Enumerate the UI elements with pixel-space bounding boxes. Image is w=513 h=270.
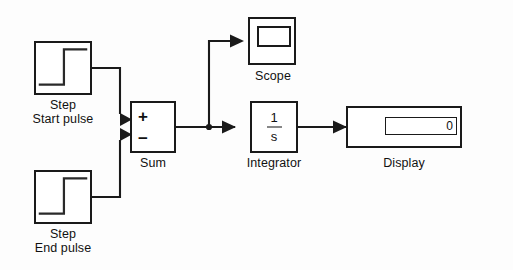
display-value-field: 0 bbox=[385, 117, 457, 135]
label-sum: Sum bbox=[113, 156, 193, 170]
step-waveform-icon bbox=[36, 172, 90, 222]
arrowhead-display bbox=[333, 121, 347, 134]
wire-branch-to-scope bbox=[209, 41, 230, 127]
integrator-transfer-function: 1 s bbox=[252, 111, 296, 144]
fraction-bar bbox=[267, 127, 282, 128]
sum-plus-sign: + bbox=[138, 108, 148, 125]
block-step-end-pulse[interactable] bbox=[34, 170, 92, 224]
label-step-end-pulse: Step End pulse bbox=[4, 227, 122, 255]
scope-screen-icon bbox=[257, 26, 291, 47]
label-sum-line1: Sum bbox=[140, 156, 166, 170]
label-step-start-line1: Step bbox=[50, 98, 76, 112]
label-display-line1: Display bbox=[383, 156, 425, 170]
block-integrator[interactable]: 1 s bbox=[250, 101, 298, 153]
label-step-end-line2: End pulse bbox=[4, 241, 122, 255]
step-waveform-icon bbox=[36, 43, 90, 93]
label-step-start-pulse: Step Start pulse bbox=[4, 98, 122, 126]
arrowhead-integrator bbox=[222, 121, 236, 134]
label-display: Display bbox=[354, 156, 454, 170]
block-display[interactable]: 0 bbox=[346, 106, 462, 148]
integrator-numerator: 1 bbox=[252, 111, 296, 125]
integrator-denominator: s bbox=[252, 130, 296, 144]
label-scope: Scope bbox=[238, 69, 308, 83]
arrowhead-scope bbox=[230, 35, 244, 48]
label-scope-line1: Scope bbox=[255, 69, 291, 83]
block-step-start-pulse[interactable] bbox=[34, 41, 92, 95]
block-scope[interactable] bbox=[248, 17, 296, 65]
display-value: 0 bbox=[446, 120, 453, 132]
label-integrator: Integrator bbox=[228, 156, 320, 170]
block-sum[interactable]: + − bbox=[130, 101, 176, 153]
label-step-start-line2: Start pulse bbox=[4, 112, 122, 126]
label-step-end-line1: Step bbox=[50, 227, 76, 241]
block-diagram-canvas: Step Start pulse Step End pulse + − Sum … bbox=[0, 0, 513, 270]
signal-junction-dot bbox=[206, 124, 212, 130]
label-integrator-line1: Integrator bbox=[247, 156, 302, 170]
sum-minus-sign: − bbox=[138, 130, 148, 147]
